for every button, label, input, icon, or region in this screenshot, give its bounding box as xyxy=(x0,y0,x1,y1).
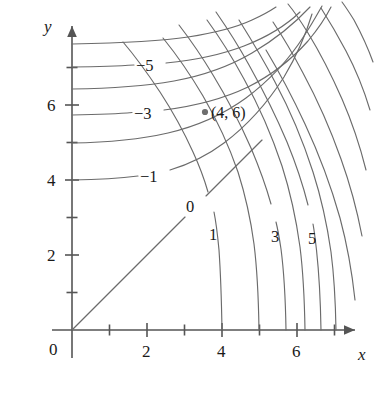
contour-curve-neg5-left xyxy=(72,65,134,67)
contour-curve-pos6 xyxy=(239,20,336,330)
zero-contour-group xyxy=(72,140,262,330)
contour-curve-neg1-left xyxy=(72,176,138,180)
contour-label-pos3: 3 xyxy=(271,227,279,246)
y-tick-label-4: 4 xyxy=(47,171,56,190)
x-tick-label-4: 4 xyxy=(217,342,226,361)
contour-plot-figure: 2 4 6 2 4 6 0 x y xyxy=(0,0,380,395)
contour-label-neg3: −3 xyxy=(134,104,152,123)
contour-label-neg1: −1 xyxy=(140,167,158,186)
contour-label-zero: 0 xyxy=(186,197,194,216)
marked-point-dot xyxy=(202,109,208,115)
marked-point-label: (4, 6) xyxy=(211,104,246,122)
contour-label-pos1: 1 xyxy=(209,225,217,244)
y-axis-label: y xyxy=(42,17,52,36)
contour-curve-outer-c xyxy=(288,4,366,170)
positive-contours-group xyxy=(123,2,373,330)
contour-curve-neg1-right xyxy=(170,14,312,170)
y-tick-label-6: 6 xyxy=(47,96,56,115)
contour-curve-zero-lower xyxy=(72,217,185,330)
contour-curve-pos2 xyxy=(163,38,259,330)
contour-plot-svg: 2 4 6 2 4 6 0 x y xyxy=(0,0,380,395)
contour-curve-outer-b xyxy=(273,22,362,236)
contour-curve-neg2 xyxy=(72,6,322,143)
contour-curve-outer-d xyxy=(321,8,370,110)
y-axis-arrowhead xyxy=(67,26,77,37)
x-axis-label: x xyxy=(357,345,366,364)
y-tick-label-2: 2 xyxy=(47,246,56,265)
contour-curve-zero-upper xyxy=(206,140,262,196)
contour-curve-neg6 xyxy=(72,7,276,44)
axes-group xyxy=(52,26,355,358)
contour-label-pos5: 5 xyxy=(308,229,316,248)
x-tick-label-2: 2 xyxy=(142,342,151,361)
x-axis-arrowhead xyxy=(344,325,355,335)
origin-label: 0 xyxy=(49,340,58,359)
contour-curve-neg3-left xyxy=(72,113,132,116)
x-tick-label-6: 6 xyxy=(292,342,301,361)
contour-label-neg5: −5 xyxy=(136,56,154,75)
